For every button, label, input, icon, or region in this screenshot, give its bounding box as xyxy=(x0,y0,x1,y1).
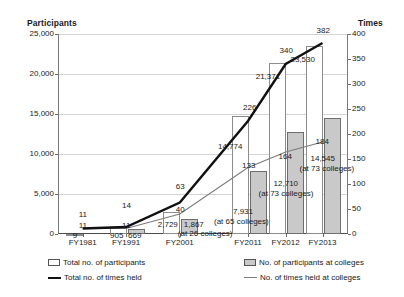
label-total-participants: 2,729 xyxy=(158,221,178,229)
legend-item-participants-at-colleges: No. of participants at colleges xyxy=(244,258,364,267)
bar-participants-at-colleges xyxy=(324,118,341,234)
right-tick-label: 250 xyxy=(352,104,392,113)
combo-chart: Participants Times 05,00010,00015,00020,… xyxy=(0,0,404,297)
label-total-times-held: 382 xyxy=(317,27,330,35)
x-tick-label-fy2012: FY2012 xyxy=(272,238,300,247)
legend-item-total-participants: Total no. of participants xyxy=(48,258,145,267)
label-college-count: (at 26 colleges) xyxy=(178,230,233,238)
label-participants-at-colleges: 669 xyxy=(128,232,141,240)
right-tick-mark xyxy=(348,134,351,135)
right-tick-mark xyxy=(348,234,351,235)
thick-line-swatch-icon xyxy=(48,277,61,279)
legend-item-times-held-at-colleges: No. of times held at colleges xyxy=(244,273,361,282)
right-tick-mark xyxy=(348,34,351,35)
label-total-participants: 905 xyxy=(110,232,123,240)
label-times-held-at-colleges: 184 xyxy=(316,138,329,146)
right-tick-mark xyxy=(348,59,351,60)
label-times-held-at-colleges: 164 xyxy=(279,153,292,161)
right-tick-mark xyxy=(348,209,351,210)
gridline xyxy=(59,74,347,75)
label-participants-at-colleges: 7,931 xyxy=(233,208,253,216)
right-tick-label: 400 xyxy=(352,29,392,38)
label-college-count: (at 73 colleges) xyxy=(300,165,355,173)
right-tick-label: 200 xyxy=(352,129,392,138)
x-tick-label-fy2013: FY2013 xyxy=(308,238,336,247)
legend-label: Total no. of times held xyxy=(64,273,142,282)
label-total-participants: 14,774 xyxy=(218,143,242,151)
label-total-times-held: 14 xyxy=(122,202,131,210)
right-tick-mark xyxy=(348,184,351,185)
x-tick-label-fy2001: FY2001 xyxy=(166,238,194,247)
label-times-held-at-colleges: 11 xyxy=(122,222,130,230)
bar-total-participants xyxy=(269,63,286,234)
gray-bar-swatch-icon xyxy=(244,259,256,266)
left-tick-mark xyxy=(55,234,58,235)
label-total-participants: 21,371 xyxy=(256,73,280,81)
right-tick-label: 50 xyxy=(352,204,392,213)
right-tick-label: 150 xyxy=(352,154,392,163)
left-tick-label: 10,000 xyxy=(10,149,54,158)
gridline xyxy=(59,114,347,115)
right-tick-label: 0 xyxy=(352,229,392,238)
left-tick-label: 15,000 xyxy=(10,109,54,118)
x-tick-mark xyxy=(323,234,324,237)
label-total-times-held: 226 xyxy=(243,104,256,112)
label-total-times-held: 11 xyxy=(79,211,87,219)
label-times-held-at-colleges: 40 xyxy=(176,206,185,214)
legend-label: No. of participants at colleges xyxy=(259,258,364,267)
x-tick-mark xyxy=(126,234,127,237)
left-tick-label: 20,000 xyxy=(10,69,54,78)
label-college-count: (at 73 colleges) xyxy=(259,190,314,198)
chart-legend: Total no. of participants Total no. of t… xyxy=(48,256,398,292)
left-axis-title: Participants xyxy=(27,18,77,28)
label-participants-at-colleges: 12,710 xyxy=(274,180,298,188)
label-times-held-at-colleges: 11 xyxy=(79,222,87,230)
left-tick-label: 25,000 xyxy=(10,29,54,38)
label-total-times-held: 340 xyxy=(280,47,293,55)
label-participants-at-colleges: 14,545 xyxy=(311,155,335,163)
right-tick-mark xyxy=(348,159,351,160)
label-total-times-held: 63 xyxy=(176,183,185,191)
label-college-count: (at 65 colleges) xyxy=(214,218,269,226)
label-total-participants: 23,530 xyxy=(291,56,315,64)
x-tick-mark xyxy=(248,234,249,237)
label-total-participants: 9 xyxy=(73,232,77,240)
thin-line-swatch-icon xyxy=(244,277,257,278)
right-tick-label: 100 xyxy=(352,179,392,188)
right-tick-mark xyxy=(348,84,351,85)
right-tick-mark xyxy=(348,109,351,110)
bar-swatch-icon xyxy=(48,259,60,266)
right-tick-label: 300 xyxy=(352,79,392,88)
x-tick-label-fy2011: FY2011 xyxy=(234,238,261,247)
legend-label: No. of times held at colleges xyxy=(260,273,361,282)
right-tick-label: 350 xyxy=(352,54,392,63)
label-times-held-at-colleges: 133 xyxy=(242,162,255,170)
legend-item-total-times-held: Total no. of times held xyxy=(48,273,142,282)
legend-label: Total no. of participants xyxy=(63,258,145,267)
x-tick-mark xyxy=(83,234,84,237)
left-tick-label: 0 xyxy=(10,229,54,238)
left-tick-label: 5,000 xyxy=(10,189,54,198)
right-axis-title: Times xyxy=(358,18,383,28)
gridline xyxy=(59,34,347,35)
x-tick-mark xyxy=(286,234,287,237)
